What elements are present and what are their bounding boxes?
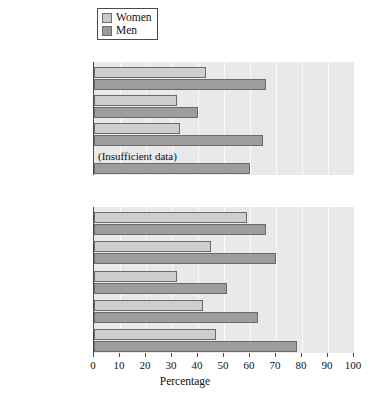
bar-women <box>94 123 180 134</box>
axis-tick <box>171 353 172 357</box>
bar-men <box>94 253 276 264</box>
axis-tick-label: 80 <box>289 359 313 371</box>
bar-women <box>94 271 177 282</box>
axis-tick-label: 70 <box>263 359 287 371</box>
gridline <box>276 62 277 175</box>
bar-women <box>94 95 177 106</box>
bar-men <box>94 135 263 146</box>
axis-tick <box>275 353 276 357</box>
bar-men <box>94 163 250 174</box>
axis-tick-label: 10 <box>107 359 131 371</box>
legend-label-men: Men <box>116 24 137 36</box>
bar-women <box>94 212 247 223</box>
bar-men <box>94 79 266 90</box>
axis-tick <box>249 353 250 357</box>
bar-women <box>94 241 211 252</box>
gridline <box>354 62 355 175</box>
gridline <box>276 207 277 353</box>
bar-women <box>94 67 206 78</box>
bar-men <box>94 312 258 323</box>
axis-tick <box>327 353 328 357</box>
legend-label-women: Women <box>116 11 151 23</box>
gridline <box>328 207 329 353</box>
axis-tick-label: 50 <box>211 359 235 371</box>
axis-tick <box>93 353 94 357</box>
axis-tick <box>145 353 146 357</box>
axis-tick <box>197 353 198 357</box>
square-swatch-icon <box>102 13 112 23</box>
gridline <box>302 62 303 175</box>
plot-area: (Insufficient data) <box>93 62 354 175</box>
bar-men <box>94 283 227 294</box>
axis-tick-label: 60 <box>237 359 261 371</box>
axis-tick-label: 40 <box>185 359 209 371</box>
axis-tick <box>301 353 302 357</box>
chart-legend: Women Men <box>97 8 158 40</box>
bar-women <box>94 300 203 311</box>
plot-area <box>93 207 354 353</box>
gridline <box>302 207 303 353</box>
axis-tick-label: 90 <box>315 359 339 371</box>
bar-men <box>94 341 297 352</box>
gridline <box>354 207 355 353</box>
bar-women <box>94 329 216 340</box>
bar-men <box>94 107 198 118</box>
insufficient-data-note: (Insufficient data) <box>98 150 177 162</box>
axis-tick-label: 30 <box>159 359 183 371</box>
axis-tick-label: 20 <box>133 359 157 371</box>
x-axis-title: Percentage <box>0 375 370 387</box>
axis-tick <box>353 353 354 357</box>
square-swatch-icon <box>102 26 112 36</box>
legend-item-women: Women <box>102 11 151 24</box>
legend-item-men: Men <box>102 24 151 37</box>
axis-tick <box>223 353 224 357</box>
gridline <box>328 62 329 175</box>
axis-tick-label: 100 <box>341 359 365 371</box>
axis-tick-label: 0 <box>81 359 105 371</box>
bar-men <box>94 224 266 235</box>
axis-tick <box>119 353 120 357</box>
